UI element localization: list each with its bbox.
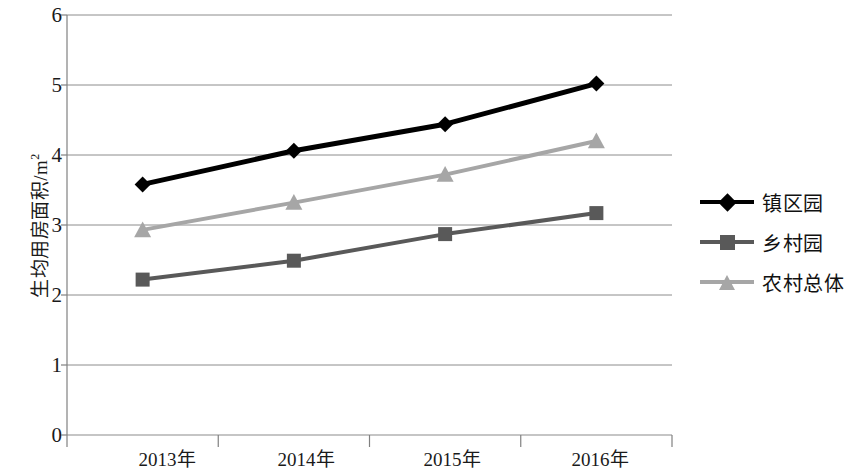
diamond-marker-icon [718,193,736,211]
square-marker-icon [136,273,150,287]
diamond-marker-icon [437,116,453,132]
series-layer [134,76,605,287]
diamond-marker-icon [135,176,151,192]
diamond-marker-icon [286,143,302,159]
legend-label-2: 农村总体 [762,268,844,297]
legend-label-1: 乡村园 [762,228,824,257]
legend-item-0[interactable]: 镇区园 [700,182,844,222]
square-marker-icon [438,227,452,241]
legend-label-0: 镇区园 [762,188,824,217]
square-marker-icon [287,254,301,268]
axis-lines [61,15,672,447]
gridlines [67,15,672,435]
square-marker-icon [720,235,735,250]
series-0 [135,76,605,193]
line-chart: 生均用房面积/m2 6 5 4 3 2 1 0 2013年 2014年 2015… [0,0,844,471]
square-marker-icon [589,206,603,220]
legend-item-1[interactable]: 乡村园 [700,222,844,262]
series-line-1 [143,213,597,280]
legend-swatch-2 [700,273,754,291]
series-line-0 [143,84,597,185]
legend-swatch-0 [700,193,754,211]
legend-swatch-1 [700,233,754,251]
legend-item-2[interactable]: 农村总体 [700,262,844,302]
legend: 镇区园 乡村园 农村总体 [700,182,844,302]
diamond-marker-icon [588,76,604,92]
series-line-2 [143,141,597,230]
triangle-marker-icon [719,275,735,290]
